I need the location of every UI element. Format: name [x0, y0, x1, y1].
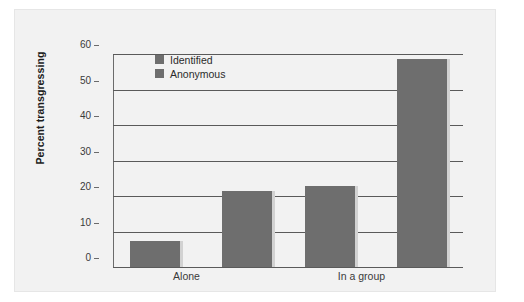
y-tick-mark-0 — [94, 258, 99, 259]
legend-item-anonymous[interactable]: Anonymous — [155, 67, 275, 80]
x-category-label-0: Alone — [127, 270, 247, 282]
y-tick-label-20: 20 — [61, 182, 91, 192]
x-category-label-1: In a group — [302, 270, 422, 282]
y-tick-mark-20 — [94, 187, 99, 188]
bar-alone-identified — [130, 241, 180, 267]
gridline-0 — [113, 267, 463, 268]
chart-panel: Percent transgressing 0102030405060 Alon… — [14, 9, 496, 292]
y-tick-label-40: 40 — [61, 111, 91, 121]
bar-alone-anonymous — [222, 191, 272, 267]
chart-legend: IdentifiedAnonymous — [155, 53, 275, 81]
y-tick-label-0: 0 — [61, 253, 91, 263]
legend-label-anonymous: Anonymous — [170, 68, 225, 80]
plot-area — [113, 54, 463, 267]
y-tick-mark-60 — [94, 45, 99, 46]
bar-in-a-group-identified — [305, 186, 355, 267]
legend-swatch-icon-identified — [155, 55, 164, 64]
y-axis-title: Percent transgressing — [34, 38, 46, 178]
legend-label-identified: Identified — [170, 54, 213, 66]
y-tick-label-60: 60 — [61, 40, 91, 50]
y-tick-mark-50 — [94, 81, 99, 82]
y-tick-label-10: 10 — [61, 218, 91, 228]
y-tick-label-30: 30 — [61, 147, 91, 157]
y-tick-mark-40 — [94, 116, 99, 117]
legend-swatch-icon-anonymous — [155, 69, 164, 78]
y-tick-label-50: 50 — [61, 76, 91, 86]
legend-item-identified[interactable]: Identified — [155, 53, 275, 66]
y-tick-mark-30 — [94, 152, 99, 153]
bar-in-a-group-anonymous — [397, 59, 447, 267]
figure-container: Percent transgressing 0102030405060 Alon… — [0, 0, 524, 302]
y-tick-mark-10 — [94, 223, 99, 224]
